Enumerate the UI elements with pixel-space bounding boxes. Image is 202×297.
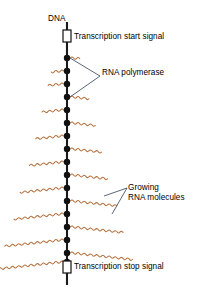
transcription-diagram bbox=[0, 0, 202, 297]
rna-polymerase-dot bbox=[64, 120, 70, 126]
rna-molecule bbox=[70, 226, 123, 233]
rna-molecule bbox=[70, 200, 117, 206]
transcription-start-signal-label: Transcription start signal bbox=[74, 32, 164, 42]
rna-polymerase-dot bbox=[64, 68, 70, 74]
rna-molecule bbox=[36, 135, 64, 139]
growing-rna-line2: RNA molecules bbox=[128, 193, 185, 202]
rna-molecule bbox=[42, 109, 64, 113]
rna-molecule bbox=[70, 174, 107, 180]
rna-molecule bbox=[5, 239, 64, 247]
rna-polymerase-dot bbox=[64, 146, 70, 152]
rna-polymerase-dot bbox=[64, 185, 70, 191]
rna-polymerase-dot bbox=[64, 133, 70, 139]
rna-polymerase-leader-line bbox=[70, 76, 100, 97]
rna-polymerase-dot bbox=[64, 172, 70, 178]
rna-molecule bbox=[30, 161, 64, 166]
rna-polymerase-dot bbox=[64, 81, 70, 87]
rna-polymerase-dot bbox=[64, 250, 70, 256]
rna-polymerase-leader-line bbox=[70, 58, 100, 76]
rna-molecule bbox=[70, 148, 101, 153]
rna-polymerase-dot bbox=[64, 224, 70, 230]
rna-molecule bbox=[70, 122, 95, 126]
rna-molecule bbox=[20, 187, 63, 193]
growing-rna-line1: Growing bbox=[128, 183, 159, 192]
dna-label: DNA bbox=[48, 14, 65, 24]
transcription-stop-signal bbox=[63, 261, 71, 273]
rna-molecule bbox=[70, 96, 89, 100]
rna-polymerase-label: RNA polymerase bbox=[102, 68, 164, 78]
rna-molecule bbox=[48, 83, 64, 86]
transcription-stop-signal-label: Transcription stop signal bbox=[74, 262, 164, 272]
rna-polymerase-dot bbox=[64, 55, 70, 61]
figure-canvas: DNA Transcription start signal RNA polym… bbox=[0, 0, 202, 297]
rna-molecule bbox=[51, 70, 63, 73]
rna-polymerase-dot bbox=[64, 211, 70, 217]
rna-polymerase-dot bbox=[64, 159, 70, 165]
growing-rna-molecules-label: GrowingRNA molecules bbox=[128, 183, 185, 202]
transcription-start-signal bbox=[63, 30, 71, 42]
rna-polymerase-dot bbox=[64, 107, 70, 113]
growing-rna-leader-line bbox=[112, 188, 127, 214]
rna-polymerase-dot bbox=[64, 237, 70, 243]
leader-lines-layer bbox=[70, 58, 127, 214]
rna-molecule bbox=[70, 252, 132, 260]
rna-molecule bbox=[14, 213, 64, 220]
rna-polymerase-dot bbox=[64, 198, 70, 204]
rna-polymerase-dot bbox=[64, 94, 70, 100]
rna-molecule bbox=[0, 261, 64, 269]
